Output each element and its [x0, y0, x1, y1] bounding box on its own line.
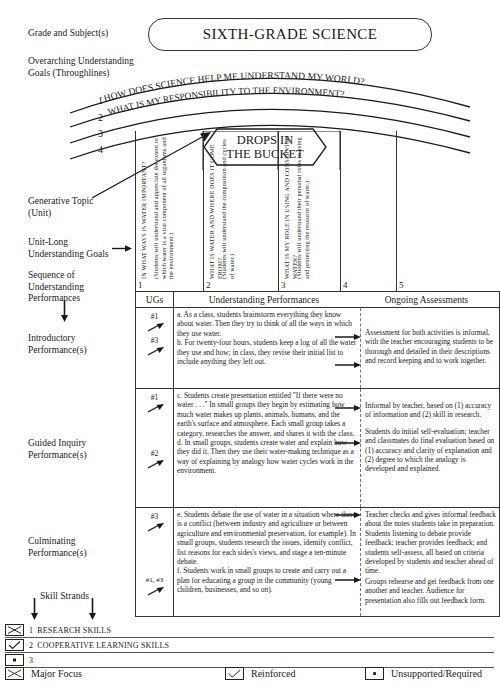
ug-mark-arrow-icon [148, 587, 164, 596]
skill-strand-label: RESEARCH SKILLS [37, 626, 111, 635]
label-generative-topic: Generative Topic (Unit) [28, 196, 93, 219]
ug-mark-arrow-icon [148, 523, 164, 532]
label-introductory-performances: Introductory Performance(s) [28, 333, 87, 356]
performance-text: e. Students debate the use of water in a… [177, 510, 357, 595]
check-box-icon [5, 639, 24, 651]
assessment-text: Teacher checks and gives informal feedba… [365, 510, 496, 576]
sequence-down-arrow-icon [60, 300, 69, 322]
assessment-text: Groups rehearse and get feedback from on… [365, 577, 496, 605]
ug-mark: #1, #3 [136, 576, 173, 584]
ug-column-2: WHAT IS WATER AND WHERE DOES IT COME FRO… [203, 131, 279, 291]
ug-question-3: WHAT IS MY ROLE IN USING AND CONSERVING … [283, 134, 294, 279]
skill-strand-row-1: 1 RESEARCH SKILLS [5, 623, 494, 638]
skill-strand-label: COOPERATIVE LEARNING SKILLS [37, 641, 169, 650]
ug-number-1: 1 [138, 280, 143, 290]
ug-column-4: 4 [340, 131, 397, 291]
x-box-icon [5, 624, 24, 636]
ug-number-4: 4 [343, 280, 348, 290]
performance-cell-3: e. Students debate the use of water in a… [174, 508, 361, 616]
assessment-arrow-icon [335, 333, 361, 341]
assessment-cell-2: Informal by teacher, based on (1) accura… [361, 389, 499, 507]
label-unit-long-goals: Unit-Long Understanding Goals [28, 237, 108, 260]
ug-marks-cell-3: #3 #1, #3 [136, 508, 174, 616]
legend-label: Unsupported/Required [391, 668, 482, 679]
ug-detail-1: (Students will understand and appreciate… [152, 134, 192, 279]
header-ugs: UGs [136, 292, 174, 307]
assessment-arrow-icon [335, 361, 361, 369]
assessment-text: Assessment for both activities is inform… [365, 328, 496, 366]
understanding-goals-columns: IN WHAT WAYS IS WATER IMPORTANT? (Studen… [135, 131, 499, 291]
assessment-arrow-icon [335, 576, 361, 584]
legend-item-unsupported-required: Unsupported/Required [365, 667, 482, 680]
label-skill-strands: Skill Strands [40, 591, 89, 603]
label-guided-inquiry-performances: Guided Inquiry Performance(s) [28, 438, 87, 461]
ug-mark: #1 [136, 393, 173, 402]
page-title: SIXTH-GRADE SCIENCE [203, 26, 378, 43]
header-ongoing-assessments: Ongoing Assessments [354, 292, 499, 307]
ug-mark: #2 [136, 449, 173, 458]
performance-cell-2: c. Students create presentation entitled… [174, 389, 361, 507]
legend-item-reinforced: Reinforced [225, 667, 365, 680]
ug-column-5: 5 [396, 131, 500, 291]
skill-strand-down-arrow-icon-left [30, 598, 39, 620]
skill-strand-row-3: 3 [5, 653, 494, 668]
skill-strand-number: 3 [29, 656, 33, 665]
ug-number-2: 2 [206, 280, 211, 290]
dot-box-icon [5, 654, 24, 666]
check-box-icon [225, 667, 244, 680]
legend-label: Reinforced [251, 668, 295, 679]
label-sequence-of-ups: Sequence of Understanding Performances [28, 270, 84, 305]
throughline-number-2: 2 [98, 112, 103, 123]
performance-cell-1: a. As a class, students brainstorm every… [174, 308, 361, 388]
skill-strand-down-arrow-icon-right [88, 598, 97, 620]
unit-long-goals-arrow-icon [112, 244, 132, 253]
performance-text: a. As a class, students brainstorm every… [177, 310, 357, 366]
ug-question-1: IN WHAT WAYS IS WATER IMPORTANT? [140, 134, 151, 279]
ug-mark: #3 [136, 336, 173, 345]
ug-marks-cell-1: #1 #3 [136, 308, 174, 388]
assessment-cell-3: Teacher checks and gives informal feedba… [361, 508, 499, 616]
ug-question-2: WHAT IS WATER AND WHERE DOES IT COME FRO… [208, 134, 219, 279]
ug-column-3: WHAT IS MY ROLE IN USING AND CONSERVING … [278, 131, 341, 291]
label-culminating-performances: Culminating Performance(s) [28, 536, 87, 559]
throughline-text-1: HOW DOES SCIENCE HELP ME UNDERSTAND MY W… [102, 69, 365, 103]
legend-item-major-focus: Major Focus [5, 667, 225, 680]
ug-number-3: 3 [281, 280, 286, 290]
ug-mark: #1 [136, 312, 173, 321]
ug-mark-arrow-icon [148, 347, 164, 356]
ug-detail-3: (Students will understand their personal… [295, 134, 335, 279]
x-box-icon [5, 667, 24, 680]
ug-column-1: IN WHAT WAYS IS WATER IMPORTANT? (Studen… [135, 131, 204, 291]
performance-text: c. Students create presentation entitled… [177, 391, 357, 476]
legend-label: Major Focus [31, 668, 82, 679]
assessment-arrow-icon [335, 404, 361, 412]
performances-table: UGs Understanding Performances Ongoing A… [135, 291, 500, 617]
assessment-text: Informal by teacher, based on (1) accura… [365, 401, 496, 420]
ug-mark: #3 [136, 512, 173, 521]
ug-mark-arrow-icon [148, 404, 164, 413]
dot-box-icon [365, 667, 384, 680]
assessment-arrow-icon [335, 439, 361, 447]
skill-strand-number: 2 [29, 641, 33, 650]
assessment-text: Students do initial self-evaluation; tea… [365, 427, 496, 474]
assessment-arrow-icon [335, 511, 361, 519]
ug-mark-arrow-icon [148, 323, 164, 332]
page-title-box: SIXTH-GRADE SCIENCE [148, 18, 432, 51]
table-row: #3 #1, #3 e. Students debate the use of … [136, 508, 499, 616]
ug-detail-2: (Students will understand the compositio… [220, 134, 254, 279]
skill-strand-number: 1 [29, 626, 33, 635]
header-understanding-performances: Understanding Performances [174, 292, 354, 307]
label-grade-subject: Grade and Subject(s) [28, 28, 108, 40]
assessment-cell-1: Assessment for both activities is inform… [361, 308, 499, 388]
ug-marks-cell-2: #1 #2 [136, 389, 174, 507]
table-row: #1 #2 c. Students create presentation en… [136, 389, 499, 508]
ug-mark-arrow-icon [148, 460, 164, 469]
table-row: #1 #3 a. As a class, students brainstorm… [136, 308, 499, 389]
skill-strand-row-2: 2 COOPERATIVE LEARNING SKILLS [5, 638, 494, 653]
table-header-row: UGs Understanding Performances Ongoing A… [136, 292, 499, 308]
legend: Major Focus Reinforced Unsupported/Requi… [5, 667, 494, 680]
throughline-number-1: 1 [98, 95, 103, 106]
ug-number-5: 5 [399, 280, 404, 290]
skill-strands-list: 1 RESEARCH SKILLS 2 COOPERATIVE LEARNING… [5, 623, 494, 668]
